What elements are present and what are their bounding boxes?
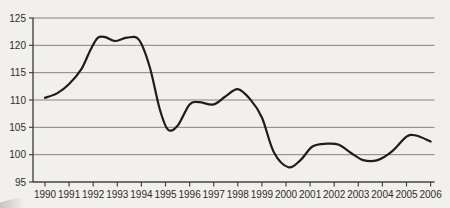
x-tick-labels: 1990199119921993199419951996199719981999…	[34, 189, 442, 200]
y-tick-label-125: 125	[9, 13, 26, 24]
x-tick-label-2004: 2004	[371, 189, 394, 200]
gridlines	[33, 18, 435, 155]
y-tick-label-105: 105	[9, 122, 26, 133]
x-tick-label-2000: 2000	[275, 189, 298, 200]
x-tick-label-2006: 2006	[419, 189, 442, 200]
data-line-index-line	[45, 36, 431, 167]
x-tick-label-2002: 2002	[323, 189, 346, 200]
x-tick-label-1999: 1999	[251, 189, 274, 200]
y-tick-labels: 95100105110115120125	[9, 13, 26, 188]
x-tick-label-1997: 1997	[203, 189, 226, 200]
x-tick-label-1994: 1994	[130, 189, 153, 200]
y-tick-label-95: 95	[15, 177, 27, 188]
y-tick-label-115: 115	[10, 67, 26, 78]
x-tick-label-2003: 2003	[347, 189, 370, 200]
x-tick-label-2005: 2005	[395, 189, 418, 200]
x-tick-label-1996: 1996	[178, 189, 201, 200]
y-tick-label-120: 120	[9, 40, 26, 51]
x-tick-label-1990: 1990	[34, 189, 57, 200]
x-tick-label-1995: 1995	[154, 189, 177, 200]
x-tick-label-2001: 2001	[299, 189, 322, 200]
line-chart-svg: 95100105110115120125 1990199119921993199…	[0, 0, 450, 208]
y-tick-label-100: 100	[9, 149, 26, 160]
series-lines	[45, 36, 431, 167]
y-tick-label-110: 110	[10, 95, 26, 106]
x-tick-label-1993: 1993	[106, 189, 129, 200]
scanned-line-chart-figure: 95100105110115120125 1990199119921993199…	[0, 0, 450, 208]
x-tick-label-1991: 1991	[58, 189, 81, 200]
x-tick-label-1992: 1992	[82, 189, 105, 200]
x-tick-label-1998: 1998	[227, 189, 250, 200]
